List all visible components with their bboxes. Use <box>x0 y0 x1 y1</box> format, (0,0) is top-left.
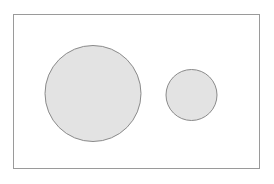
large-circle[interactable] <box>45 46 141 142</box>
figure-canvas <box>0 0 274 184</box>
small-circle[interactable] <box>166 70 217 121</box>
figure-svg <box>0 0 274 184</box>
